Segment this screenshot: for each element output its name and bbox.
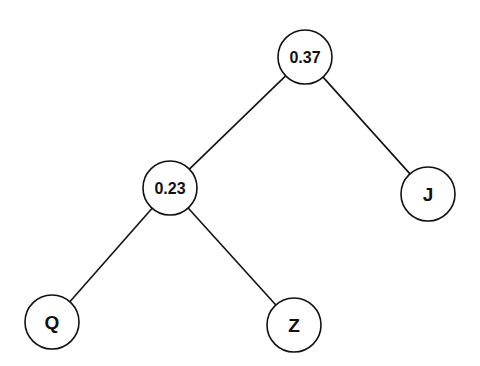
- node-label: Q: [45, 312, 60, 333]
- node-label: 0.37: [289, 49, 320, 66]
- edge-root-inner: [189, 76, 285, 169]
- tree-diagram: 0.370.23JQZ: [0, 0, 480, 366]
- edge-root-J: [323, 77, 410, 174]
- node-j: J: [401, 167, 455, 221]
- node-root: 0.37: [278, 30, 332, 84]
- node-z: Z: [267, 298, 321, 352]
- edge-inner-Z: [188, 208, 276, 305]
- node-q: Q: [25, 295, 79, 349]
- edges: [70, 76, 410, 305]
- node-inner: 0.23: [143, 161, 197, 215]
- edge-inner-Q: [70, 208, 152, 301]
- node-label: 0.23: [154, 180, 185, 197]
- tree-svg: 0.370.23JQZ: [0, 0, 480, 366]
- nodes: 0.370.23JQZ: [25, 30, 455, 352]
- node-label: J: [423, 184, 434, 205]
- node-label: Z: [288, 315, 300, 336]
